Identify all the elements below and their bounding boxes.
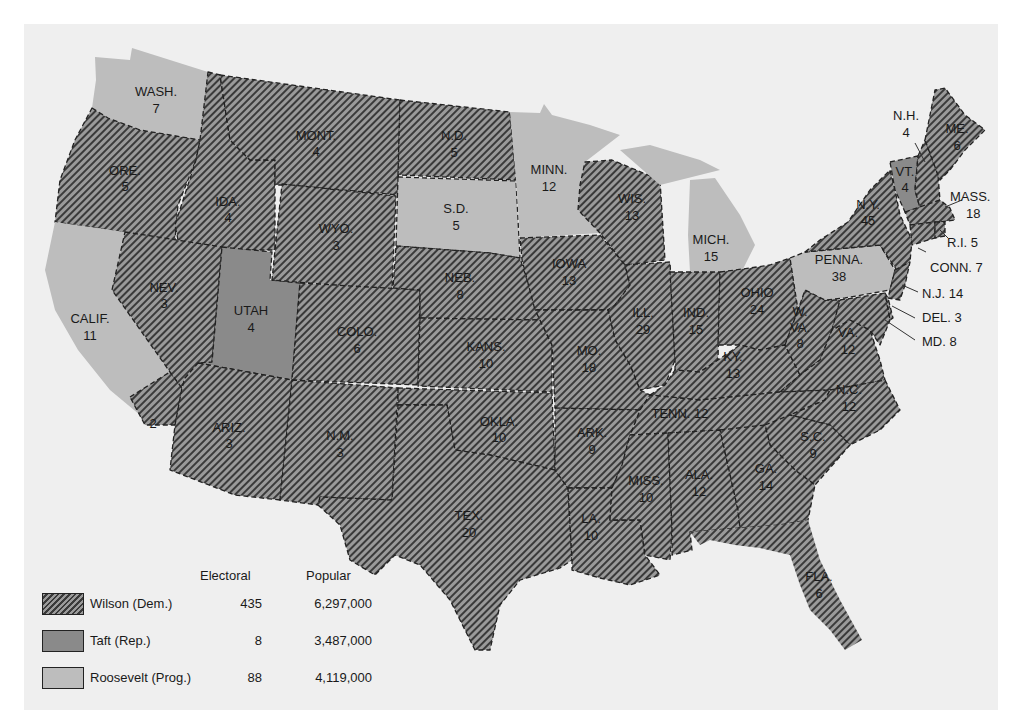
label-miss: MISS. <box>628 473 663 488</box>
votes-wash: 7 <box>152 101 159 116</box>
label-del: DEL. 3 <box>922 310 962 325</box>
label-sd: S.D. <box>443 201 468 216</box>
label-ohio: OHIO <box>740 285 773 300</box>
label-nd: N.D. <box>441 128 467 143</box>
votes-ga: 14 <box>759 478 773 493</box>
legend-row-roosevelt: Roosevelt (Prog.) 88 4,119,000 <box>40 667 360 691</box>
votes-ala: 12 <box>692 484 706 499</box>
label-nj: N.J. 14 <box>922 286 963 301</box>
label-wis: WIS. <box>618 191 646 206</box>
label-mass: MASS. <box>950 189 990 204</box>
label-md: MD. 8 <box>922 334 957 349</box>
legend-candidate: Roosevelt (Prog.) <box>90 670 191 685</box>
votes-nev: 3 <box>160 296 167 311</box>
votes-wis: 13 <box>625 208 639 223</box>
votes-nc: 12 <box>842 399 856 414</box>
votes-va: 12 <box>841 342 855 357</box>
state-kansas[interactable] <box>418 318 552 392</box>
votes-mont: 4 <box>312 144 319 159</box>
label-nc: N.C. <box>836 382 862 397</box>
legend-candidate: Wilson (Dem.) <box>90 596 172 611</box>
label-ariz: ARIZ. <box>212 420 245 435</box>
taft-swatch-icon <box>42 630 84 652</box>
votes-wva: 8 <box>796 336 803 351</box>
label-ida: IDA. <box>215 194 240 209</box>
label-ind: IND. <box>683 305 709 320</box>
legend-candidate: Taft (Rep.) <box>90 633 151 648</box>
votes-miss: 10 <box>639 490 653 505</box>
label-ala: ALA. <box>685 467 713 482</box>
label-neb: NEB. <box>445 270 475 285</box>
legend: Electoral Popular Wilson (Dem.) 435 6,29… <box>40 568 360 698</box>
label-penna: PENNA. <box>815 252 863 267</box>
wilson-swatch-icon <box>42 593 84 615</box>
legend-popular: 6,297,000 <box>280 596 372 611</box>
label-ri: R.I. 5 <box>947 235 978 250</box>
label-colo: COLO. <box>337 324 377 339</box>
legend-row-wilson: Wilson (Dem.) 435 6,297,000 <box>40 593 360 617</box>
votes-la: 10 <box>584 528 598 543</box>
votes-calif: 11 <box>83 328 97 343</box>
votes-mass: 18 <box>966 206 980 221</box>
votes-mich: 15 <box>704 249 718 264</box>
votes-ark: 9 <box>588 442 595 457</box>
label-vt: VT. <box>896 164 915 179</box>
label-nev: NEV. <box>149 280 178 295</box>
votes-ohio: 24 <box>750 302 764 317</box>
votes-penna: 38 <box>832 269 846 284</box>
votes-utah: 4 <box>247 320 254 335</box>
votes-iowa: 13 <box>562 273 576 288</box>
roosevelt-swatch-icon <box>42 667 84 689</box>
label-ky: KY. <box>723 349 742 364</box>
legend-popular: 4,119,000 <box>280 670 372 685</box>
label-ga: GA. <box>755 461 777 476</box>
state-connecticut[interactable] <box>910 222 935 245</box>
votes-neb: 8 <box>456 287 463 302</box>
label-ny: N.Y. <box>856 197 880 212</box>
label-calif: CALIF. <box>70 311 109 326</box>
label-conn: CONN. 7 <box>930 260 983 275</box>
label-mo: MO. <box>577 343 602 358</box>
votes-ariz: 3 <box>225 436 232 451</box>
label-minn: MINN. <box>531 162 568 177</box>
legend-popular: 3,487,000 <box>280 633 372 648</box>
label-tex: TEX. <box>455 508 484 523</box>
votes-sd: 5 <box>452 218 459 233</box>
label-wash: WASH. <box>135 84 177 99</box>
votes-colo: 6 <box>353 341 360 356</box>
state-wyoming[interactable] <box>272 184 396 290</box>
votes-fla: 6 <box>815 586 822 601</box>
label-va: VA. <box>838 325 858 340</box>
votes-wyo: 3 <box>332 238 339 253</box>
legend-electoral: 8 <box>210 633 262 648</box>
label-kans: KANS. <box>466 339 505 354</box>
legend-row-taft: Taft (Rep.) 8 3,487,000 <box>40 630 360 654</box>
votes-ky: 13 <box>726 366 740 381</box>
legend-electoral: 88 <box>210 670 262 685</box>
state-florida[interactable] <box>690 520 862 650</box>
label-mich: MICH. <box>693 232 730 247</box>
label-ore: ORE. <box>109 163 141 178</box>
label-me: ME. <box>945 121 968 136</box>
votes-ill: 29 <box>636 322 650 337</box>
votes-ny: 45 <box>861 213 875 228</box>
label-nm: N.M. <box>326 428 353 443</box>
label-utah: UTAH <box>234 303 268 318</box>
label-okla: OKLA. <box>480 414 518 429</box>
label-nh: N.H. <box>893 108 919 123</box>
votes-minn: 12 <box>542 179 556 194</box>
votes-okla: 10 <box>492 430 506 445</box>
label-mont: MONT. <box>296 128 336 143</box>
votes-kans: 10 <box>479 356 493 371</box>
label-tenn: TENN. 12 <box>651 406 708 421</box>
legend-electoral: 435 <box>210 596 262 611</box>
votes-vt: 4 <box>901 180 908 195</box>
label-sc: S.C. <box>800 429 825 444</box>
label-wva-2: VA. <box>790 320 810 335</box>
label-la: LA. <box>581 511 601 526</box>
votes-nm: 3 <box>336 445 343 460</box>
legend-header-electoral: Electoral <box>200 568 251 583</box>
legend-header-popular: Popular <box>306 568 351 583</box>
votes-ore: 5 <box>121 179 128 194</box>
votes-me: 6 <box>953 138 960 153</box>
